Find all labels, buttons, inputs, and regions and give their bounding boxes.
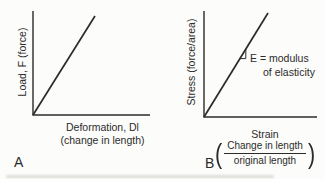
- panel-a-x-axis-label-line2: (change in length): [40, 134, 165, 147]
- panel-a-x-axis-label-line1: Deformation, Dl: [40, 121, 165, 134]
- panel-a-x-axis-label: Deformation, Dl (change in length): [40, 121, 165, 147]
- strain-fraction: ( Change in length original length ): [204, 140, 325, 167]
- modulus-annotation: E = modulus of elasticity: [250, 52, 315, 79]
- modulus-annotation-line1: E = modulus: [250, 52, 315, 66]
- modulus-annotation-line2: of elasticity: [263, 66, 315, 80]
- fraction-close-paren: ): [308, 141, 315, 167]
- panel-a-letter: A: [14, 154, 23, 170]
- panel-a-y-axis-label: Load, F (force): [15, 7, 29, 117]
- elasticity-figure: Load, F (force) Deformation, Dl (change …: [0, 0, 325, 179]
- cropped-caption-remnant: [6, 175, 274, 178]
- fraction-denominator: original length: [224, 154, 306, 167]
- fraction-open-paren: (: [215, 141, 222, 167]
- panel-a-load-deformation-line: [33, 16, 95, 115]
- fraction-numerator: Change in length: [224, 140, 306, 154]
- panel-b-y-axis-label: Stress (force/area): [184, 7, 198, 117]
- fraction-body: Change in length original length: [224, 140, 306, 167]
- panel-b-letter: B: [205, 155, 214, 171]
- panel-a-axes: [33, 11, 150, 115]
